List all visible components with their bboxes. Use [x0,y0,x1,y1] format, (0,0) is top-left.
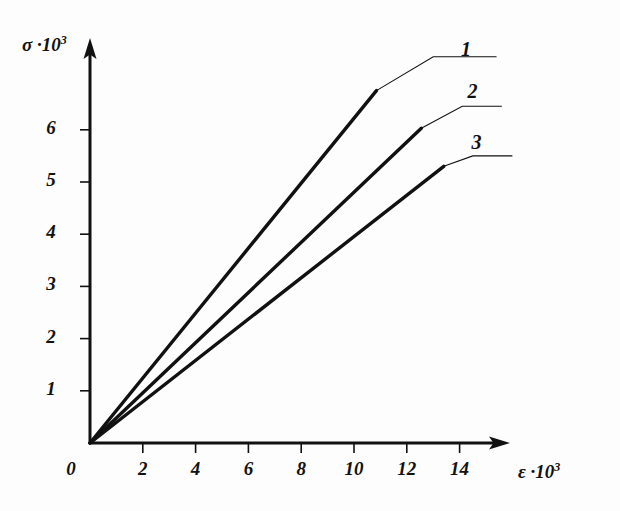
x-axis-title: ε ·103 [518,460,560,483]
data-line-2 [90,128,421,443]
origin-label: 0 [58,458,84,480]
x-tick-label: 6 [228,458,268,480]
y-axis [84,38,97,443]
x-axis [90,437,510,450]
data-line-1 [90,91,376,443]
x-tick-label: 4 [176,458,216,480]
chart-plot-area [0,0,620,511]
leader-line-2 [421,106,502,128]
x-tick-label: 10 [334,458,374,480]
leader-line-1 [376,57,496,91]
leader-line-3 [444,156,513,166]
y-tick-label: 3 [34,273,68,295]
curve-label-2: 2 [468,80,478,103]
data-line-3 [90,166,444,443]
x-tick-label: 12 [387,458,427,480]
x-tick-label: 2 [123,458,163,480]
data-series-group [90,91,444,443]
y-tick-label: 1 [34,378,68,400]
x-tick-label: 8 [281,458,321,480]
y-tick-label: 4 [34,221,68,243]
chart-figure: 02468101214 123456 123 σ ·103 ε ·103 0 [0,0,620,511]
x-tick-label: 14 [440,458,480,480]
y-tick-label: 2 [34,326,68,348]
curve-label-1: 1 [461,38,471,61]
y-tick-label: 6 [34,117,68,139]
y-axis-title: σ ·103 [22,33,67,56]
curve-label-3: 3 [471,131,481,154]
y-tick-label: 5 [34,169,68,191]
